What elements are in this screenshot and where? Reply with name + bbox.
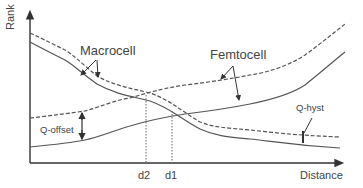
y-axis-label: Rank	[4, 4, 16, 30]
q-hyst-arrow	[303, 118, 312, 143]
x-axis-label: Distance	[300, 170, 343, 181]
q-offset-label: Q-offset	[40, 125, 74, 135]
q-hyst-label: Q-hyst	[296, 103, 324, 113]
femtocell-label: Femtocell	[210, 48, 266, 61]
diagram-canvas	[0, 0, 363, 188]
femtocell-solid-curve	[30, 52, 345, 147]
d1-label: d1	[165, 170, 177, 181]
macrocell-solid-curve	[30, 42, 340, 148]
macrocell-label: Macrocell	[80, 44, 136, 57]
femtocell-pointer-arrows	[221, 66, 239, 100]
d2-label: d2	[138, 170, 150, 181]
